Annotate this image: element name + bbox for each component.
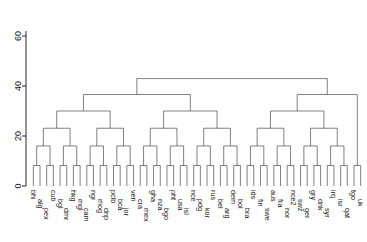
- dendrogram-branch: [60, 166, 67, 187]
- leaf-label: pex: [42, 208, 51, 220]
- dendrogram-figure: 6040200bhialgpexcubbgldmrhkgmglcamngrmog…: [0, 0, 367, 242]
- leaf-label: jor: [122, 207, 131, 217]
- dendrogram-branch: [117, 146, 130, 166]
- y-axis-tick-label: 60: [13, 31, 23, 41]
- dendrogram-branch: [164, 111, 217, 128]
- dendrogram-branch: [197, 146, 210, 166]
- leaf-label: isl: [182, 208, 191, 215]
- dendrogram-branch: [331, 146, 344, 166]
- y-axis: 6040200: [13, 31, 26, 189]
- dendrogram-branch: [341, 166, 348, 187]
- dendrogram-branch: [114, 166, 121, 187]
- y-axis-tick-label: 0: [13, 183, 23, 188]
- dendrogram-branch: [311, 128, 338, 146]
- dendrogram-branch: [127, 166, 134, 187]
- dendrogram-branch: [301, 166, 308, 187]
- dendrogram-branch: [150, 128, 177, 146]
- leaf-labels: bhialgpexcubbgldmrhkgmglcamngrmogdnppclb…: [29, 190, 365, 222]
- leaf-label: kor: [203, 208, 212, 219]
- dendrogram-branch: [180, 166, 187, 187]
- dendrogram-branch: [194, 166, 201, 187]
- dendrogram-branch: [247, 166, 254, 187]
- dendrogram-branch: [73, 166, 80, 187]
- leaf-label: cam: [82, 208, 91, 222]
- leaf-label: fra: [276, 199, 285, 207]
- leaf-label: nor: [283, 208, 292, 219]
- leaf-label: syr: [323, 208, 332, 218]
- dendrogram-branch: [277, 146, 290, 166]
- leaf-label: fin: [256, 199, 265, 207]
- leaf-label: arg: [223, 208, 232, 218]
- dendrogram-branch: [137, 79, 327, 95]
- dendrogram-branch: [260, 166, 267, 187]
- leaf-label: mex: [142, 208, 151, 222]
- dendrogram-branch: [257, 128, 284, 146]
- dendrogram-branches: [33, 79, 360, 186]
- y-axis-tick-label: 20: [13, 131, 23, 141]
- dendrogram-branch: [97, 128, 124, 146]
- dendrogram-plot: 6040200bhialgpexcubbgldmrhkgmglcamngrmog…: [0, 0, 367, 242]
- dendrogram-branch: [83, 95, 190, 111]
- dendrogram-branch: [250, 146, 263, 166]
- leaf-label: irq: [329, 190, 338, 198]
- dendrogram-branch: [154, 166, 161, 187]
- dendrogram-branch: [170, 146, 183, 166]
- dendrogram-branch: [43, 128, 70, 146]
- dendrogram-branch: [90, 146, 103, 166]
- leaf-label: dmr: [62, 208, 71, 221]
- dendrogram-branch: [140, 166, 147, 187]
- dendrogram-branch: [47, 166, 54, 187]
- leaf-label: ger: [303, 208, 312, 219]
- dendrogram-branch: [314, 166, 321, 187]
- leaf-label: qat: [343, 208, 352, 218]
- dendrogram-branch: [304, 146, 317, 166]
- dendrogram-branch: [220, 166, 227, 187]
- dendrogram-branch: [234, 166, 241, 187]
- dendrogram-branch: [37, 146, 50, 166]
- leaf-label: dnp: [102, 208, 111, 220]
- dendrogram-branch: [100, 166, 107, 187]
- dendrogram-branch: [167, 166, 174, 187]
- dendrogram-branch: [354, 166, 361, 187]
- leaf-label: uk: [356, 199, 365, 207]
- leaf-label: isr: [336, 199, 345, 207]
- dendrogram-branch: [144, 146, 157, 166]
- leaf-label: swe: [263, 208, 272, 221]
- dendrogram-branch: [204, 128, 231, 146]
- dendrogram-branch: [87, 166, 94, 187]
- dendrogram-branch: [274, 166, 281, 187]
- dendrogram-branch: [33, 166, 40, 187]
- dendrogram-branch: [327, 166, 334, 187]
- leaf-label: bra: [243, 208, 252, 218]
- dendrogram-branch: [57, 111, 110, 128]
- dendrogram-branch: [207, 166, 214, 187]
- dendrogram-branch: [297, 95, 357, 166]
- dendrogram-branch: [287, 166, 294, 187]
- leaf-label: bgo: [162, 208, 171, 220]
- dendrogram-branch: [270, 111, 323, 128]
- dendrogram-branch: [224, 146, 237, 166]
- y-axis-tick-label: 40: [13, 81, 23, 91]
- dendrogram-branch: [63, 146, 76, 166]
